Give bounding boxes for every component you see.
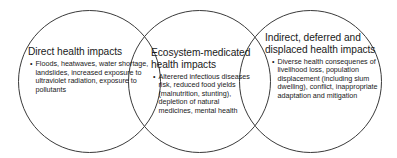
- venn-bullet-list-right: Diverse health consequenes of livelihood…: [272, 58, 385, 101]
- venn-label-group-left: Direct health impacts Floods, heatwaves,…: [28, 46, 150, 94]
- venn-heading-left: Direct health impacts: [28, 46, 150, 58]
- venn-bullet-item: Diverse health consequenes of livelihood…: [272, 58, 385, 101]
- venn-bullet-item: Floods, heatwaves, water shortage, lands…: [30, 60, 150, 94]
- venn-bullet-list-left: Floods, heatwaves, water shortage, lands…: [30, 60, 150, 94]
- venn-bullet-list-center: Alterered infectious diseases risk, redu…: [153, 73, 255, 116]
- venn-bullet-item: Alterered infectious diseases risk, redu…: [153, 73, 255, 116]
- venn-heading-right: Indirect, deferred and displaced health …: [265, 32, 385, 55]
- venn-heading-center: Ecosystem-medicated health impacts: [151, 47, 255, 70]
- venn-label-group-right: Indirect, deferred and displaced health …: [265, 32, 385, 101]
- venn-diagram: Direct health impacts Floods, heatwaves,…: [0, 0, 397, 158]
- venn-label-group-center: Ecosystem-medicated health impacts Alter…: [151, 47, 255, 116]
